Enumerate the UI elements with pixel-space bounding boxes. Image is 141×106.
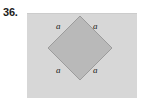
problem-number-label: 36.	[3, 7, 18, 18]
background-rectangle	[27, 13, 137, 98]
side-label-a-top-right: a	[93, 22, 98, 31]
side-label-a-top-left: a	[56, 22, 61, 31]
side-label-a-bottom-left: a	[56, 66, 61, 75]
side-label-a-bottom-right: a	[93, 66, 98, 75]
figure-container: 36. a a a a	[0, 0, 141, 106]
